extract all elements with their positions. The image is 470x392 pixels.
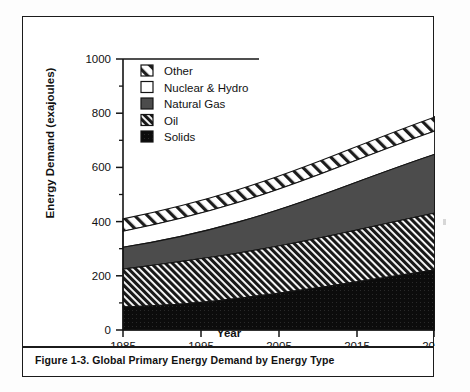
caption-divider — [23, 346, 433, 348]
legend-item-oil: Oil — [141, 115, 178, 127]
legend-item-natural-gas: Natural Gas — [141, 98, 226, 110]
legend-item-solids: Solids — [141, 131, 196, 143]
legend-swatch-other — [141, 65, 153, 76]
legend-label-other: Other — [164, 65, 193, 77]
figure-caption: Figure 1-3. Global Primary Energy Demand… — [35, 354, 334, 366]
legend-swatch-solids — [141, 131, 153, 142]
legend-item-nuclear-hydro: Nuclear & Hydro — [141, 82, 248, 94]
figure-page: Energy Demand (exajoules) — [0, 0, 470, 392]
x-axis-title: Year — [23, 327, 435, 339]
figure-frame: Energy Demand (exajoules) — [22, 16, 434, 377]
legend-swatch-nuclear-hydro — [141, 82, 153, 93]
y-tick-label: 600 — [92, 161, 111, 173]
legend-swatch-oil — [141, 115, 153, 126]
legend-label-nuclear-hydro: Nuclear & Hydro — [164, 82, 248, 94]
legend-label-natural-gas: Natural Gas — [164, 98, 226, 110]
chart-legend: Other Nuclear & Hydro Natural Gas Oil — [141, 65, 248, 143]
y-tick-label: 800 — [92, 107, 111, 119]
y-tick-label: 200 — [92, 270, 111, 282]
legend-label-solids: Solids — [164, 131, 196, 143]
scan-artifact — [443, 219, 446, 225]
y-tick-label: 1000 — [85, 53, 111, 65]
y-tick-label: 400 — [92, 216, 111, 228]
stacked-area-chart: 0 200 400 600 800 1000 1985 1995 2005 20… — [23, 17, 435, 346]
legend-label-oil: Oil — [164, 115, 178, 127]
plot-series-group — [123, 117, 435, 330]
legend-item-other: Other — [141, 65, 193, 77]
chart-area: Energy Demand (exajoules) — [23, 17, 435, 346]
legend-swatch-natural-gas — [141, 98, 153, 109]
